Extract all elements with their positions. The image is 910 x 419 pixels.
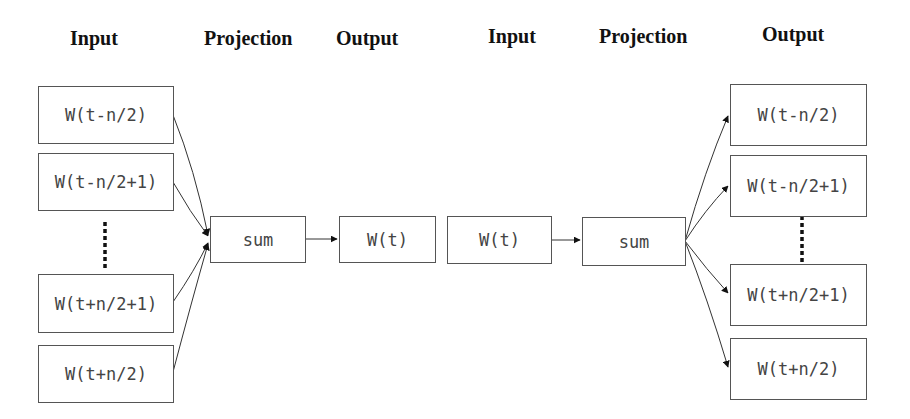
skipgram-output-label: W(t+n/2+1)	[747, 285, 849, 305]
skipgram-output-label: W(t-n/2)	[758, 105, 840, 125]
cbow-input-label: W(t-n/2)	[65, 105, 147, 125]
skipgram-output-label: W(t+n/2)	[758, 359, 840, 379]
cbow-input-box: W(t+n/2)	[38, 345, 174, 403]
skipgram-output-box: W(t-n/2+1)	[730, 155, 867, 217]
cbow-input-box: W(t+n/2+1)	[38, 274, 174, 333]
cbow-projection-box: sum	[210, 216, 306, 263]
skipgram-output-box: W(t+n/2+1)	[730, 264, 867, 326]
skipgram-projection-box: sum	[582, 217, 686, 266]
cbow-input-label: W(t-n/2+1)	[55, 172, 157, 192]
cbow-input-label: W(t+n/2+1)	[55, 294, 157, 314]
skipgram-projection-label: sum	[619, 232, 650, 252]
cbow-input-box: W(t-n/2+1)	[38, 153, 174, 211]
cbow-input-box: W(t-n/2)	[38, 86, 174, 144]
skipgram-output-box: W(t+n/2)	[730, 338, 867, 400]
cbow-output-box: W(t)	[339, 216, 436, 263]
cbow-projection-label: sum	[243, 230, 274, 250]
cbow-output-label: W(t)	[367, 230, 408, 250]
skipgram-output-label: W(t-n/2+1)	[747, 176, 849, 196]
skipgram-input-label: W(t)	[479, 230, 520, 250]
skipgram-input-box: W(t)	[447, 216, 552, 264]
cbow-input-label: W(t+n/2)	[65, 364, 147, 384]
skipgram-output-box: W(t-n/2)	[730, 84, 867, 146]
